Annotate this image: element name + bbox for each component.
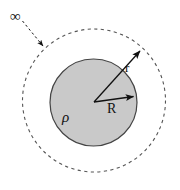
diagram-canvas: ∞ r R ρ	[0, 0, 180, 190]
radius-R-label: R	[107, 101, 117, 116]
radius-r-label: r	[125, 60, 130, 75]
charged-sphere-circle	[50, 59, 137, 146]
infinity-label: ∞	[10, 8, 21, 24]
physics-diagram-figure: ∞ r R ρ	[0, 0, 180, 190]
charge-density-label: ρ	[61, 109, 69, 125]
